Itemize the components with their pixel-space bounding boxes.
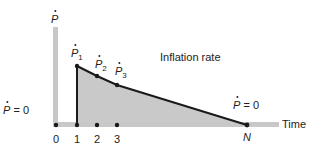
y-axis-label: P <box>51 14 58 25</box>
subscript: 1 <box>78 53 82 62</box>
p-dot-symbol: P <box>3 105 10 116</box>
x-axis-label: Time <box>282 119 306 130</box>
tick-dot-1 <box>75 123 79 127</box>
y-axis <box>53 27 58 127</box>
label-p1: P1 <box>71 48 83 62</box>
p-dot-symbol: P <box>71 48 78 59</box>
end-point-label: N <box>243 132 251 143</box>
tick-dot-0 <box>54 123 58 127</box>
left-equation: P = 0 <box>3 105 29 116</box>
inflation-diagram <box>0 0 323 154</box>
label-p3: P3 <box>115 66 127 80</box>
point-n <box>245 123 250 128</box>
p-dot-symbol: P <box>95 59 102 70</box>
subscript: 3 <box>122 71 126 80</box>
tick-label-3: 3 <box>114 134 120 145</box>
p-dot-symbol: P <box>233 100 240 111</box>
equation-rest: = 0 <box>13 104 29 116</box>
tick-dot-2 <box>95 123 99 127</box>
tick-label-1: 1 <box>74 134 80 145</box>
point-p2 <box>95 74 99 78</box>
curve-label: Inflation rate <box>160 52 221 63</box>
p-dot-symbol: P <box>51 14 58 25</box>
point-p3 <box>115 83 119 87</box>
tick-label-2: 2 <box>94 134 100 145</box>
tick-label-0: 0 <box>53 134 59 145</box>
point-p1 <box>75 64 79 68</box>
equation-rest: = 0 <box>243 99 259 111</box>
subscript: 2 <box>102 64 106 73</box>
p-dot-symbol: P <box>115 66 122 77</box>
right-equation: P = 0 <box>233 100 259 111</box>
label-p2: P2 <box>95 59 107 73</box>
tick-dot-3 <box>115 123 119 127</box>
